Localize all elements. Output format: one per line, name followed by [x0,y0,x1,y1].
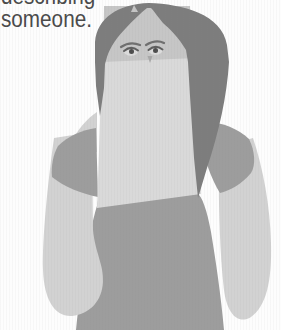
illustration-woman-holding-paper [0,0,281,330]
paper-sheet [97,58,201,208]
left-eye-pupil [129,49,134,54]
page: describing someone. [0,0,281,330]
right-eye-pupil [153,48,158,53]
